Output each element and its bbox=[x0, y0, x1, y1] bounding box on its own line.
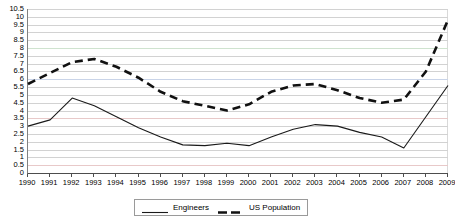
plot-area bbox=[27, 9, 448, 174]
x-tick-label: 1996 bbox=[151, 178, 168, 188]
x-tick-label: 1990 bbox=[19, 178, 36, 188]
x-tick bbox=[292, 174, 293, 177]
y-tick-label: 9.5 bbox=[14, 21, 24, 29]
y-tick-label: 0 bbox=[20, 169, 24, 177]
y-tick-label: 7.5 bbox=[14, 52, 24, 60]
series-line-engineers bbox=[28, 86, 448, 148]
x-tick bbox=[160, 174, 161, 177]
x-tick-label: 1995 bbox=[129, 178, 146, 188]
y-tick-label: 3.5 bbox=[14, 114, 24, 122]
x-tick bbox=[27, 174, 28, 177]
x-tick-label: 2008 bbox=[417, 178, 434, 188]
x-axis: 1990199119921993199419951996199719981999… bbox=[27, 178, 448, 192]
y-tick-label: 0.5 bbox=[14, 161, 24, 169]
x-tick-label: 2000 bbox=[240, 178, 257, 188]
x-tick-label: 2003 bbox=[306, 178, 323, 188]
x-tick bbox=[270, 174, 271, 177]
x-tick-label: 2009 bbox=[439, 178, 455, 188]
y-tick-label: 3 bbox=[20, 122, 24, 130]
series-line-us-population bbox=[28, 20, 448, 111]
x-tick-label: 2005 bbox=[350, 178, 367, 188]
y-tick-label: 5 bbox=[20, 91, 24, 99]
y-tick-label: 2.5 bbox=[14, 130, 24, 138]
y-tick-label: 8.5 bbox=[14, 36, 24, 44]
x-tick-label: 2004 bbox=[328, 178, 345, 188]
x-tick bbox=[447, 174, 448, 177]
y-tick-label: 8 bbox=[20, 44, 24, 52]
x-tick bbox=[425, 174, 426, 177]
x-tick bbox=[336, 174, 337, 177]
x-tick bbox=[138, 174, 139, 177]
x-tick-label: 2001 bbox=[262, 178, 279, 188]
y-tick-label: 1.5 bbox=[14, 146, 24, 154]
x-tick bbox=[381, 174, 382, 177]
y-tick-label: 6.5 bbox=[14, 67, 24, 75]
x-tick bbox=[93, 174, 94, 177]
legend-label: Engineers bbox=[173, 203, 209, 212]
y-tick-label: 7 bbox=[20, 60, 24, 68]
x-tick-label: 1994 bbox=[107, 178, 124, 188]
x-tick bbox=[71, 174, 72, 177]
legend-entry: Engineers bbox=[142, 203, 209, 212]
y-tick-label: 4.5 bbox=[14, 99, 24, 107]
x-tick-label: 2002 bbox=[284, 178, 301, 188]
x-tick bbox=[49, 174, 50, 177]
y-tick-label: 10 bbox=[16, 13, 24, 21]
y-tick-label: 1 bbox=[20, 153, 24, 161]
legend-swatch-solid-line bbox=[142, 203, 168, 212]
line-chart: 00.511.522.533.544.555.566.577.588.599.5… bbox=[0, 0, 455, 221]
y-tick-label: 4 bbox=[20, 107, 24, 115]
y-tick-label: 10.5 bbox=[9, 5, 24, 13]
x-tick-label: 1992 bbox=[63, 178, 80, 188]
y-axis: 00.511.522.533.544.555.566.577.588.599.5… bbox=[0, 0, 26, 180]
x-tick bbox=[182, 174, 183, 177]
x-tick-label: 2007 bbox=[394, 178, 411, 188]
series-layer bbox=[28, 9, 448, 173]
chart-legend: EngineersUS Population bbox=[134, 199, 308, 216]
x-tick bbox=[403, 174, 404, 177]
x-tick bbox=[359, 174, 360, 177]
y-tick-label: 6 bbox=[20, 75, 24, 83]
x-tick bbox=[115, 174, 116, 177]
legend-label: US Population bbox=[249, 203, 300, 212]
x-tick-label: 2006 bbox=[372, 178, 389, 188]
x-tick-label: 1997 bbox=[173, 178, 190, 188]
x-tick-label: 1999 bbox=[218, 178, 235, 188]
x-tick-label: 1998 bbox=[195, 178, 212, 188]
legend-entry: US Population bbox=[218, 203, 300, 212]
x-tick bbox=[248, 174, 249, 177]
x-tick bbox=[204, 174, 205, 177]
x-tick-label: 1993 bbox=[85, 178, 102, 188]
legend-swatch-dashed-line bbox=[218, 203, 244, 212]
x-tick bbox=[314, 174, 315, 177]
y-tick-label: 9 bbox=[20, 28, 24, 36]
x-tick bbox=[226, 174, 227, 177]
y-tick-label: 2 bbox=[20, 138, 24, 146]
x-tick-label: 1991 bbox=[41, 178, 58, 188]
y-tick-label: 5.5 bbox=[14, 83, 24, 91]
